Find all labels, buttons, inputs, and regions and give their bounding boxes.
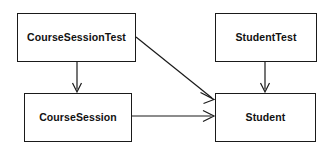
edge-student-test-to-student [261, 62, 270, 92]
class-node-label: Student [246, 112, 286, 123]
class-node-course-session-test[interactable]: CourseSessionTest [17, 13, 136, 62]
class-node-label: CourseSessionTest [27, 32, 126, 43]
class-node-label: CourseSession [39, 112, 117, 123]
class-node-student-test[interactable]: StudentTest [215, 13, 317, 62]
edge-course-session-test-to-student [136, 37, 214, 104]
class-dependency-diagram: CourseSessionTest CourseSession StudentT… [0, 0, 333, 150]
edge-course-session-to-student [132, 111, 214, 122]
edge-line [136, 37, 212, 98]
class-node-course-session[interactable]: CourseSession [24, 93, 132, 142]
class-node-label: StudentTest [236, 32, 297, 43]
edge-course-session-test-to-course-session [73, 62, 82, 92]
class-node-student[interactable]: Student [215, 93, 316, 142]
